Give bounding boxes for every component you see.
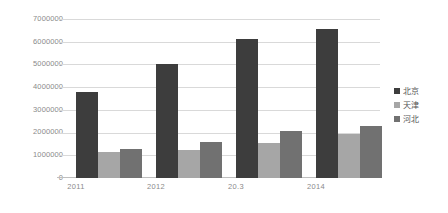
bar-hebei-2013 xyxy=(280,131,302,178)
bar-tianjin-2014 xyxy=(338,134,360,178)
bar-beijing-2014 xyxy=(316,29,338,178)
y-axis-tick-6000000: 6000000 xyxy=(3,38,63,46)
y-axis-tick-1000000: 1000000 xyxy=(3,151,63,159)
legend-label-tianjin: 天津 xyxy=(403,101,419,110)
bar-tianjin-2012 xyxy=(178,150,200,178)
bar-beijing-2013 xyxy=(236,39,258,178)
x-axis-label-2012: 2012 xyxy=(123,182,189,191)
top-edge-artifact xyxy=(0,0,448,7)
x-axis-label-2014: 2014 xyxy=(283,182,349,191)
bar-hebei-2014 xyxy=(360,126,382,178)
bar-chart: 7000000 6000000 5000000 4000000 3000000 … xyxy=(0,0,448,213)
bar-hebei-2012 xyxy=(200,142,222,178)
x-axis-label-2011: 2011 xyxy=(43,182,109,191)
legend-label-beijing: 北京 xyxy=(403,87,419,96)
y-axis-tick-5000000: 5000000 xyxy=(3,60,63,68)
y-axis-tick-0: 0 xyxy=(3,174,63,182)
legend-item-beijing[interactable]: 北京 xyxy=(394,84,444,98)
legend-item-tianjin[interactable]: 天津 xyxy=(394,98,444,112)
x-axis-label-2013: 20.3 xyxy=(203,182,269,191)
plot-area xyxy=(57,19,380,178)
legend-item-hebei[interactable]: 河北 xyxy=(394,112,444,126)
y-axis-tick-3000000: 3000000 xyxy=(3,106,63,114)
gridline-7000000 xyxy=(57,19,380,20)
bar-hebei-2011 xyxy=(120,149,142,178)
bar-tianjin-2013 xyxy=(258,143,280,178)
bar-beijing-2012 xyxy=(156,64,178,178)
legend-swatch-tianjin xyxy=(394,102,400,108)
y-axis-tick-4000000: 4000000 xyxy=(3,83,63,91)
legend: 北京 天津 河北 xyxy=(394,84,444,126)
y-axis-tick-7000000: 7000000 xyxy=(3,15,63,23)
bar-beijing-2011 xyxy=(76,92,98,178)
y-axis-tick-2000000: 2000000 xyxy=(3,128,63,136)
legend-swatch-beijing xyxy=(394,88,400,94)
bar-tianjin-2011 xyxy=(98,152,120,178)
legend-label-hebei: 河北 xyxy=(403,115,419,124)
legend-swatch-hebei xyxy=(394,116,400,122)
